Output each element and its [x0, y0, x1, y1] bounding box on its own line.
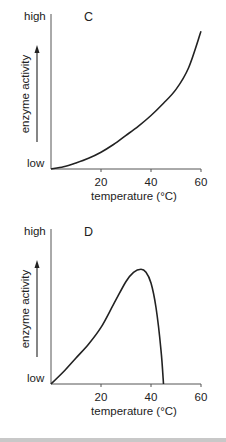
x-tick-label: 60 [186, 391, 216, 403]
y-axis-label: enzyme activity [19, 39, 31, 149]
y-axis-label: enzyme activity [19, 254, 31, 364]
chart-panel-d: high D low enzyme activity 20 40 60 temp… [0, 215, 226, 430]
chart-panel-c: high C low enzyme activity 20 40 60 temp… [0, 0, 226, 215]
x-tick-label: 60 [186, 176, 216, 188]
x-tick-label: 20 [86, 176, 116, 188]
y-low-label: low [27, 157, 44, 169]
x-tick-label: 40 [136, 176, 166, 188]
y-high-label: high [24, 225, 46, 237]
y-high-label: high [24, 10, 46, 22]
x-tick-label: 20 [86, 391, 116, 403]
y-low-label: low [27, 372, 44, 384]
arrowhead-icon [35, 45, 40, 53]
panel-letter: D [84, 225, 93, 239]
curve-d [51, 269, 164, 384]
footer-bar [0, 438, 226, 442]
panel-letter: C [84, 10, 93, 24]
x-axis-label: temperature (°C) [54, 405, 214, 417]
arrowhead-icon [35, 260, 40, 268]
x-axis-label: temperature (°C) [54, 190, 214, 202]
curve-c [51, 31, 201, 169]
x-tick-label: 40 [136, 391, 166, 403]
